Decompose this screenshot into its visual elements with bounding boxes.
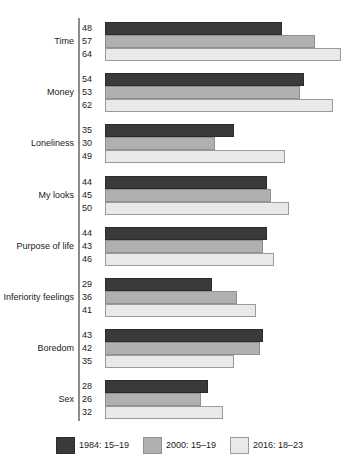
bar-value-label: 46 [82, 254, 102, 265]
bar-row: 36 [0, 291, 359, 304]
bar [105, 278, 212, 291]
bar [105, 380, 208, 393]
bar-value-label: 49 [82, 151, 102, 162]
bar-row: 54 [0, 73, 359, 86]
bar-row: 43 [0, 240, 359, 253]
bar [105, 124, 234, 137]
bar-row: 28 [0, 380, 359, 393]
bar-value-label: 44 [82, 177, 102, 188]
plot-area: Time485764Money545362Loneliness353049My … [0, 0, 359, 425]
bar-value-label: 57 [82, 36, 102, 47]
bar-value-label: 36 [82, 292, 102, 303]
bar-value-label: 50 [82, 203, 102, 214]
bar-value-label: 35 [82, 125, 102, 136]
bar-group: Loneliness353049 [0, 124, 359, 163]
bar-row: 29 [0, 278, 359, 291]
bar-row: 30 [0, 137, 359, 150]
bar-value-label: 42 [82, 343, 102, 354]
bar-group: Time485764 [0, 22, 359, 61]
bar [105, 22, 282, 35]
legend-label: 2000: 15–19 [166, 440, 216, 450]
legend-swatch-icon [230, 437, 249, 454]
bar-value-label: 32 [82, 407, 102, 418]
bar-value-label: 44 [82, 228, 102, 239]
bar-value-label: 28 [82, 381, 102, 392]
bar-value-label: 29 [82, 279, 102, 290]
bar-row: 57 [0, 35, 359, 48]
bar-value-label: 54 [82, 74, 102, 85]
bar-row: 48 [0, 22, 359, 35]
bar [105, 202, 289, 215]
chart-legend: 1984: 15–192000: 15–192016: 18–23 [0, 432, 359, 458]
bar-row: 45 [0, 189, 359, 202]
bar-row: 32 [0, 406, 359, 419]
bar [105, 329, 263, 342]
legend-item: 2016: 18–23 [230, 437, 303, 454]
bar-row: 42 [0, 342, 359, 355]
bar [105, 406, 223, 419]
bar [105, 253, 274, 266]
bar-value-label: 64 [82, 49, 102, 60]
bar-value-label: 53 [82, 87, 102, 98]
bar-value-label: 48 [82, 23, 102, 34]
bar [105, 291, 237, 304]
bar [105, 176, 267, 189]
bar-row: 35 [0, 355, 359, 368]
bar-row: 26 [0, 393, 359, 406]
bar [105, 48, 341, 61]
legend-swatch-icon [56, 437, 75, 454]
bar-group: My looks444550 [0, 176, 359, 215]
bar [105, 240, 263, 253]
bar [105, 227, 267, 240]
bar-group: Money545362 [0, 73, 359, 112]
bar-value-label: 30 [82, 138, 102, 149]
bar [105, 304, 256, 317]
bar [105, 393, 201, 406]
legend-swatch-icon [143, 437, 162, 454]
bar-value-label: 45 [82, 190, 102, 201]
legend-label: 2016: 18–23 [253, 440, 303, 450]
bar-chart: Time485764Money545362Loneliness353049My … [0, 0, 359, 476]
legend-label: 1984: 15–19 [79, 440, 129, 450]
bar-row: 50 [0, 202, 359, 215]
legend-item: 1984: 15–19 [56, 437, 129, 454]
legend-item: 2000: 15–19 [143, 437, 216, 454]
bar-row: 44 [0, 227, 359, 240]
bar-value-label: 35 [82, 356, 102, 367]
bar-group: Sex282632 [0, 380, 359, 419]
bar [105, 35, 315, 48]
bar [105, 355, 234, 368]
bar-value-label: 43 [82, 330, 102, 341]
bar-row: 43 [0, 329, 359, 342]
bar-value-label: 26 [82, 394, 102, 405]
bar-row: 44 [0, 176, 359, 189]
bar-row: 35 [0, 124, 359, 137]
bar [105, 150, 285, 163]
bar [105, 99, 333, 112]
bar-row: 41 [0, 304, 359, 317]
bar [105, 86, 300, 99]
bar-value-label: 43 [82, 241, 102, 252]
bar-value-label: 41 [82, 305, 102, 316]
bar [105, 342, 260, 355]
bar-row: 62 [0, 99, 359, 112]
bar [105, 73, 304, 86]
bar-row: 49 [0, 150, 359, 163]
bar [105, 189, 271, 202]
bar [105, 137, 215, 150]
bar-row: 46 [0, 253, 359, 266]
bar-group: Boredom434235 [0, 329, 359, 368]
bar-row: 53 [0, 86, 359, 99]
bar-group: Inferiority feelings293641 [0, 278, 359, 317]
bar-row: 64 [0, 48, 359, 61]
bar-group: Purpose of life444346 [0, 227, 359, 266]
bar-value-label: 62 [82, 100, 102, 111]
